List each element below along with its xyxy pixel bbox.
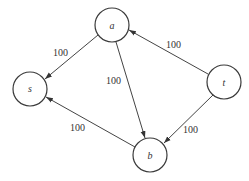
edge-label-a-to-s: 100 <box>53 47 68 58</box>
edge-a-to-b <box>116 42 145 138</box>
node-b-label: b <box>148 150 153 161</box>
edge-label-a-to-b: 100 <box>106 75 121 86</box>
edge-t-to-b <box>164 95 213 143</box>
node-a-label: a <box>110 20 115 31</box>
node-s: s <box>13 72 47 106</box>
edge-label-t-to-b: 100 <box>183 124 198 135</box>
node-s-label: s <box>28 83 32 94</box>
edge-b-to-s <box>46 97 135 147</box>
edge-label-b-to-s: 100 <box>70 122 85 133</box>
edge-t-to-a <box>129 30 208 74</box>
node-t: t <box>207 65 241 99</box>
edge-label-t-to-a: 100 <box>166 39 181 50</box>
flow-network-diagram: 100 100 100 100 100 a s t b <box>0 0 249 181</box>
node-b: b <box>133 138 167 172</box>
node-t-label: t <box>223 77 226 88</box>
edges: 100 100 100 100 100 <box>45 30 213 147</box>
node-a: a <box>95 8 129 42</box>
